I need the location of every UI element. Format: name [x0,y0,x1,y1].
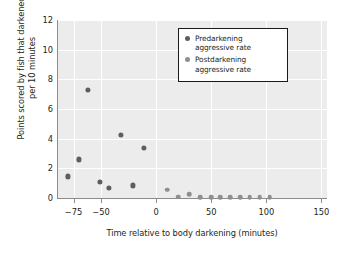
x-tick-label: 0 [136,207,176,217]
x-tick-mark [266,199,267,203]
y-axis-line [57,20,58,198]
legend-marker-postdarkening-icon [185,57,190,62]
data-point [118,132,123,137]
data-point [165,188,170,193]
y-tick-label: 12 [35,15,53,25]
x-tick-label: −50 [81,207,121,217]
x-tick-mark [156,199,157,203]
gridline-horizontal [57,139,327,140]
gridline-vertical [156,20,157,198]
gridline-horizontal [57,109,327,110]
data-point [187,192,192,197]
legend-marker-predarkening-icon [185,36,190,41]
x-axis-tick-labels: −75−50050100150 [57,207,327,219]
legend-label-postdarkening: Postdarkening aggressive rate [195,55,251,73]
legend-label-predarkening: Predarkening aggressive rate [195,34,251,52]
x-tick-mark [321,199,322,203]
scatter-chart-figure: Points scored by fish that darkened per … [0,0,345,255]
data-point [130,183,135,188]
legend-item-predarkening: Predarkening aggressive rate [184,34,283,52]
data-point [65,174,70,179]
gridline-horizontal [57,20,327,21]
gridline-vertical [101,20,102,198]
x-tick-label: 150 [301,207,341,217]
data-point [85,87,90,92]
chart-legend: Predarkening aggressive rate Postdarkeni… [178,28,288,82]
y-tick-label: 4 [35,134,53,144]
x-tick-mark [74,199,75,203]
x-axis-tick-marks [57,199,327,204]
gridline-vertical [74,20,75,198]
x-tick-mark [101,199,102,203]
data-point [76,157,81,162]
y-tick-label: 10 [35,45,53,55]
gridline-horizontal [57,168,327,169]
x-tick-label: 100 [246,207,286,217]
y-tick-label: 8 [35,74,53,84]
x-tick-label: 50 [191,207,231,217]
x-tick-mark [211,199,212,203]
data-point [106,185,111,190]
y-tick-label: 0 [35,193,53,203]
y-axis-tick-labels: 024681012 [33,20,53,198]
y-tick-label: 6 [35,104,53,114]
legend-item-postdarkening: Postdarkening aggressive rate [184,55,283,73]
data-point [141,145,146,150]
gridline-vertical [321,20,322,198]
y-tick-label: 2 [35,163,53,173]
x-axis-title: Time relative to body darkening (minutes… [57,228,327,238]
